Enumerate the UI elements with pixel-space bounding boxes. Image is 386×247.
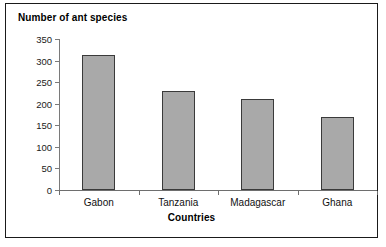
y-axis-line	[59, 39, 60, 191]
x-axis-tick-mark	[59, 191, 60, 195]
y-axis-tick-mark	[55, 168, 59, 169]
y-axis-tick-label: 50	[41, 163, 52, 174]
y-axis-tick-mark	[55, 125, 59, 126]
y-axis-tick-mark	[55, 147, 59, 148]
chart-title: Number of ant species	[18, 12, 127, 23]
y-axis-tick-mark	[55, 61, 59, 62]
x-axis-label-madagascar: Madagascar	[230, 197, 285, 208]
x-axis-label-gabon: Gabon	[84, 197, 114, 208]
x-axis-tick-mark	[377, 191, 378, 195]
x-axis-tick-mark	[218, 191, 219, 195]
bar-gabon	[82, 55, 115, 190]
chart-frame: Number of ant species 050100150200250300…	[5, 3, 378, 238]
y-axis-tick-label: 0	[47, 185, 52, 196]
x-axis-label-ghana: Ghana	[322, 197, 352, 208]
y-axis-tick-mark	[55, 82, 59, 83]
x-axis-tick-mark	[139, 191, 140, 195]
y-axis-tick-label: 100	[36, 141, 52, 152]
y-axis-tick-label: 350	[36, 34, 52, 45]
plot-area: 050100150200250300350 GabonTanzaniaMadag…	[59, 39, 377, 191]
y-axis-tick-mark	[55, 39, 59, 40]
bar-ghana	[321, 117, 354, 190]
x-axis-title: Countries	[6, 212, 377, 223]
bar-madagascar	[241, 99, 274, 190]
y-axis-tick-mark	[55, 104, 59, 105]
x-axis-tick-mark	[298, 191, 299, 195]
x-axis-label-tanzania: Tanzania	[158, 197, 198, 208]
y-axis-tick-label: 300	[36, 55, 52, 66]
y-axis-tick-label: 200	[36, 98, 52, 109]
bar-tanzania	[162, 91, 195, 190]
y-axis-tick-label: 250	[36, 77, 52, 88]
y-axis-tick-label: 150	[36, 120, 52, 131]
